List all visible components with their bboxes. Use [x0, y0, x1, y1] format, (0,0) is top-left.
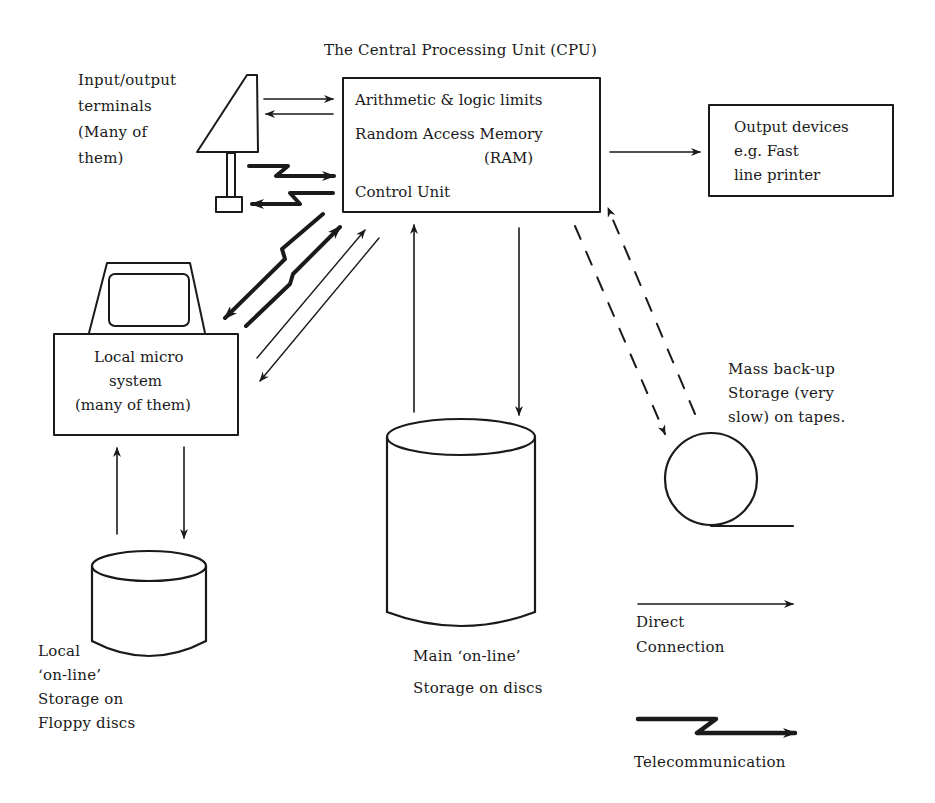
legend-direct-label-2: Connection [636, 636, 725, 659]
main-storage-line-2: Storage on discs [413, 677, 543, 700]
micro-monitor-icon [89, 263, 205, 333]
terminal-icon [197, 75, 258, 212]
local-storage-line-2: ‘on-line’ [38, 664, 101, 687]
output-devices-line-1: Output devices [734, 116, 849, 138]
legend-telecom-label: Telecommunication [634, 751, 786, 774]
local-micro-line-3: (many of them) [75, 394, 191, 416]
floppy-disc-cylinder-icon [92, 551, 206, 656]
output-devices-line-3: line printer [734, 164, 820, 186]
terminals-label-1: Input/output [78, 69, 176, 92]
cpu-line-ram: Random Access Memory [355, 123, 543, 145]
output-devices-line-2: e.g. Fast [734, 140, 799, 162]
main-disc-cylinder-icon [387, 419, 535, 626]
main-storage-line-1: Main ‘on-line’ [413, 645, 521, 668]
cpu-title: The Central Processing Unit (CPU) [324, 39, 597, 62]
terminals-label-4: them) [78, 147, 124, 170]
local-micro-line-2: system [109, 370, 162, 392]
cpu-line-ram-abbr: (RAM) [484, 147, 533, 169]
local-micro-line-1: Local micro [94, 346, 184, 368]
local-storage-line-1: Local [38, 640, 80, 663]
mass-backup-line-1: Mass back-up [728, 358, 835, 381]
legend-direct-label-1: Direct [636, 611, 685, 634]
terminals-label-2: terminals [78, 95, 152, 118]
legend-telecom-arrow [638, 719, 795, 733]
local-storage-line-4: Floppy discs [38, 712, 135, 735]
cpu-line-control: Control Unit [355, 181, 450, 203]
mass-backup-line-2: Storage (very [728, 382, 834, 405]
local-storage-line-3: Storage on [38, 688, 123, 711]
cpu-line-alu: Arithmetic & logic limits [355, 89, 542, 111]
mass-backup-line-3: slow) on tapes. [728, 406, 845, 429]
terminals-label-3: (Many of [78, 121, 147, 144]
tape-reel-icon [665, 433, 793, 526]
